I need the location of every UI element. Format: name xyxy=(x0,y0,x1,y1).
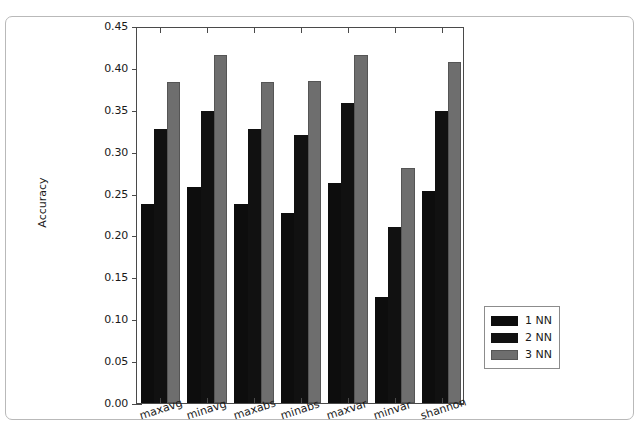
y-tick-label: 0.05 xyxy=(84,355,128,368)
y-axis-title: Accuracy xyxy=(36,143,49,263)
y-tick-label: 0.10 xyxy=(84,313,128,326)
bar xyxy=(354,55,367,404)
legend-item: 3 NN xyxy=(491,346,552,363)
bar xyxy=(448,62,461,403)
x-tick-mark-top xyxy=(395,28,396,33)
y-tick-label: 0.40 xyxy=(84,62,128,75)
y-tick-mark-inner xyxy=(137,404,142,405)
bar xyxy=(261,82,274,403)
y-tick-label: 0.20 xyxy=(84,229,128,242)
x-tick-mark-top xyxy=(301,28,302,33)
x-tick-mark-top xyxy=(442,28,443,33)
bar xyxy=(308,81,321,403)
legend-label-2nn: 2 NN xyxy=(525,331,552,344)
bar xyxy=(201,111,214,403)
bar xyxy=(141,204,154,403)
bar-chart: 0.000.050.100.150.200.250.300.350.400.45… xyxy=(0,0,639,432)
y-tick-label: 0.45 xyxy=(84,20,128,33)
legend-label-1nn: 1 NN xyxy=(525,314,552,327)
bar xyxy=(422,191,435,403)
bar xyxy=(167,82,180,403)
plot-area xyxy=(136,27,464,404)
legend-swatch-3nn xyxy=(491,350,518,360)
legend-swatch-2nn xyxy=(491,333,518,343)
bar xyxy=(187,187,200,403)
x-tick-mark-top xyxy=(160,28,161,33)
bar xyxy=(234,204,247,403)
y-tick-label: 0.25 xyxy=(84,188,128,201)
bar xyxy=(341,103,354,403)
bar xyxy=(401,168,414,403)
legend-swatch-1nn xyxy=(491,316,518,326)
legend-item: 2 NN xyxy=(491,329,552,346)
bar xyxy=(214,55,227,404)
bar xyxy=(328,183,341,403)
y-axis: 0.000.050.100.150.200.250.300.350.400.45 xyxy=(0,0,136,432)
bar xyxy=(388,227,401,403)
x-tick-mark-top xyxy=(348,28,349,33)
bar xyxy=(281,213,294,403)
bar xyxy=(294,135,307,403)
legend-item: 1 NN xyxy=(491,312,552,329)
bar xyxy=(375,297,388,403)
chart-legend: 1 NN 2 NN 3 NN xyxy=(484,306,560,369)
legend-label-3nn: 3 NN xyxy=(525,348,552,361)
y-tick-label: 0.00 xyxy=(84,397,128,410)
y-tick-label: 0.30 xyxy=(84,146,128,159)
y-tick-label: 0.35 xyxy=(84,104,128,117)
bar xyxy=(154,129,167,403)
bar xyxy=(248,129,261,403)
y-tick-label: 0.15 xyxy=(84,271,128,284)
x-tick-mark-top xyxy=(207,28,208,33)
bar xyxy=(435,111,448,403)
x-tick-mark-top xyxy=(254,28,255,33)
